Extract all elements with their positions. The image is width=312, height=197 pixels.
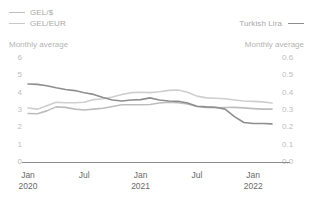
x-axis-tick: Jan2020 xyxy=(8,170,48,192)
x-axis-tick-month: Jul xyxy=(191,170,202,180)
x-axis-tick-year: 2022 xyxy=(233,181,273,192)
x-axis-tick-month: Jan xyxy=(134,170,148,180)
series-line xyxy=(28,102,272,114)
axis-tick: 2 xyxy=(18,123,22,131)
legend-item-label: GEL/EUR xyxy=(30,19,66,28)
axis-tick: 0.6 xyxy=(282,54,293,62)
axis-tick: 0.3 xyxy=(282,106,293,114)
axis-tick: 3 xyxy=(18,106,22,114)
x-axis-baseline xyxy=(22,162,290,163)
x-axis-tick: Jul xyxy=(64,170,104,181)
legend-item-label: GEL/$ xyxy=(30,8,53,17)
axis-tick: 0.2 xyxy=(282,123,293,131)
legend-item-gel-usd: GEL/$ xyxy=(9,7,66,18)
series-line xyxy=(28,90,272,109)
x-axis-tick: Jul xyxy=(177,170,217,181)
axis-tick: 0.1 xyxy=(282,141,293,149)
line-swatch-icon xyxy=(9,23,25,24)
axis-tick: 0.5 xyxy=(282,71,293,79)
exchange-rate-chart: GEL/$ GEL/EUR Turkish Lira Monthly avera… xyxy=(0,0,312,197)
line-swatch-icon xyxy=(288,23,304,24)
subtitle-left: Monthly average xyxy=(9,40,68,49)
x-axis-tick-month: Jan xyxy=(21,170,35,180)
legend-right: Turkish Lira xyxy=(239,18,304,29)
axis-tick: 0.4 xyxy=(282,89,293,97)
x-axis-tick-month: Jan xyxy=(246,170,260,180)
legend-left: GEL/$ GEL/EUR xyxy=(9,7,66,29)
x-axis-labels: Jan2020JulJan2021JulJan2022 xyxy=(0,166,312,196)
x-axis-tick-year: 2020 xyxy=(8,181,48,192)
plot-area xyxy=(28,58,272,162)
legend-item-turkish-lira: Turkish Lira xyxy=(239,18,304,29)
y-axis-left: 6543210 xyxy=(0,52,26,168)
x-axis-tick-year: 2021 xyxy=(121,181,161,192)
x-axis-tick-month: Jul xyxy=(79,170,90,180)
axis-tick: 6 xyxy=(18,54,22,62)
line-swatch-icon xyxy=(9,12,25,13)
series-lines xyxy=(28,58,272,162)
subtitle-right: Monthly average xyxy=(245,40,304,49)
axis-tick: 4 xyxy=(18,89,22,97)
y-axis-right: 0.60.50.40.30.20.10.0 xyxy=(276,52,310,168)
legend-item-label: Turkish Lira xyxy=(239,19,282,28)
legend-item-gel-eur: GEL/EUR xyxy=(9,18,66,29)
x-axis-tick: Jan2021 xyxy=(121,170,161,192)
x-axis-tick: Jan2022 xyxy=(233,170,273,192)
axis-tick: 5 xyxy=(18,71,22,79)
axis-tick: 1 xyxy=(18,141,22,149)
